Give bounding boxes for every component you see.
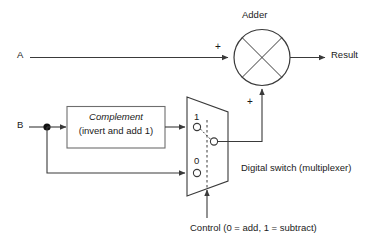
adder-plus-bottom: + [247,96,253,108]
input-a-label: A [17,50,23,61]
mux-input-0-label: 0 [194,156,199,167]
control-label: Control (0 = add, 1 = subtract) [190,223,317,234]
multiplexer-caption: Digital switch (multiplexer) [241,163,351,174]
wire-mux-to-adder [218,89,262,142]
mux-input-1-label: 1 [194,112,199,123]
complement-title: Complement [89,112,143,123]
adder-symbol [234,30,290,86]
complement-subtitle: (invert and add 1) [79,126,153,137]
result-label: Result [331,50,358,61]
input-b-label: B [17,120,23,131]
diagram-canvas: Adder A B Result + + Complement (invert … [0,0,376,243]
adder-plus-top: + [215,41,221,53]
adder-label: Adder [242,10,267,21]
diagram-graphics [0,0,376,243]
